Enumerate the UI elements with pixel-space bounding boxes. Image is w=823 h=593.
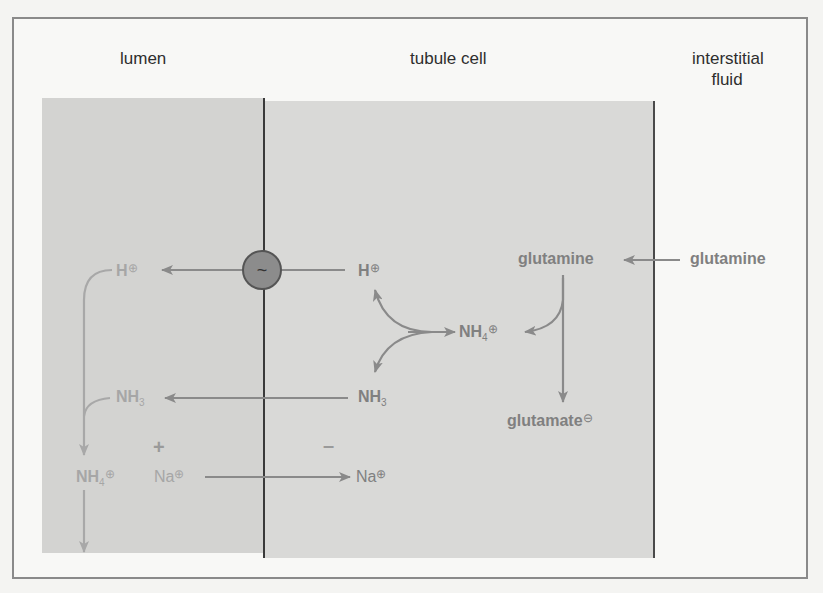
lumen-nh4-ion: NH4⊕ (76, 467, 115, 488)
lumen-nh3-join (84, 398, 110, 416)
h-pump-transporter: ~ (242, 250, 282, 290)
glutamine-to-nh4-arrow (525, 278, 563, 332)
cell-nh3: NH3 (358, 388, 387, 408)
fluid-glutamine: glutamine (690, 250, 766, 268)
lumen-h-to-nh4-arrow (84, 270, 112, 455)
atp-tilde-icon: ~ (257, 260, 268, 281)
cell-negative-sign: – (323, 434, 334, 457)
lumen-positive-sign: + (153, 436, 165, 459)
arrows-layer (0, 0, 823, 593)
lumen-nh3: NH3 (116, 388, 145, 408)
cell-glutamine: glutamine (518, 250, 594, 268)
nh4-to-h-arrow (375, 290, 432, 332)
cell-nh4-ion: NH4⊕ (459, 322, 498, 343)
glutamate-ion: glutamate⊖ (507, 411, 593, 430)
cell-na-ion: Na⊕ (356, 467, 386, 486)
nh4-to-nh3-arrow (375, 332, 432, 372)
lumen-h-ion: H⊕ (116, 261, 138, 280)
cell-h-ion: H⊕ (358, 261, 380, 280)
lumen-na-ion: Na⊕ (154, 467, 184, 486)
